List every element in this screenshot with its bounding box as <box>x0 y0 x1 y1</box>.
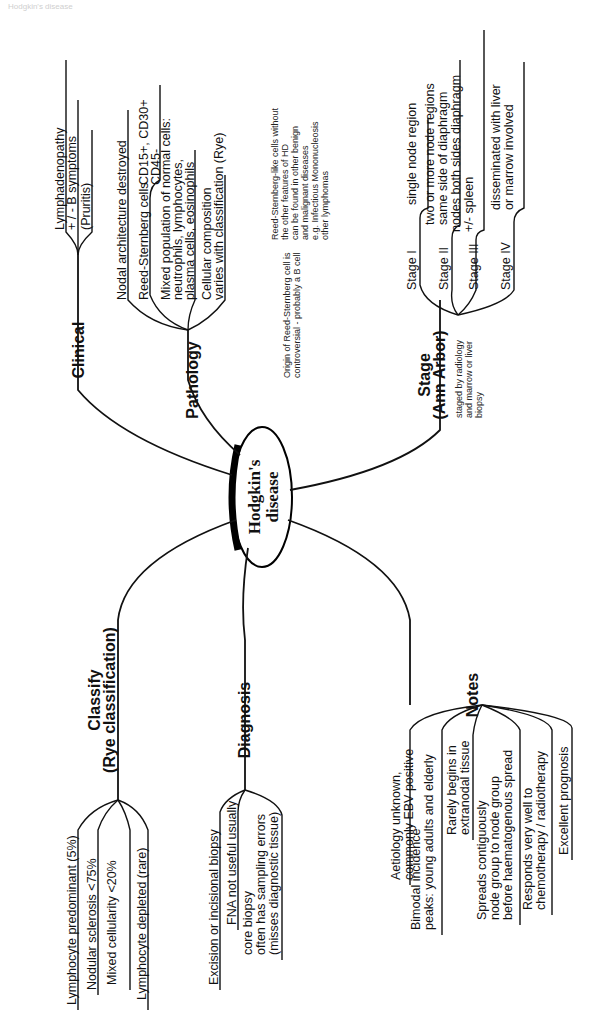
pathology-title: Pathology <box>184 341 201 418</box>
stage-3-desc-line2: +/- spleen <box>462 177 476 232</box>
classify-item-3: Mixed cellularity <20% <box>105 860 119 985</box>
diagnosis-item-2: FNA not useful usually <box>225 800 239 925</box>
diagnosis-title: Diagnosis <box>236 682 253 759</box>
clinical-item-2: + / - B symptoms <box>65 136 79 230</box>
central-node: Hodgkin's disease <box>232 427 292 567</box>
pathology-item-nodal: Nodal architecture destroyed <box>115 140 129 300</box>
stage-note-line1: staged by radiology <box>454 339 464 418</box>
center-title-line2: disease <box>263 471 282 522</box>
pathology-mixed-line3: plasma cells, eosinophils <box>183 162 197 300</box>
stage-note-line2: and marrow or liver <box>464 341 474 418</box>
stage-1-label: Stage I <box>405 250 419 290</box>
pathology-rs-like-note-line2: the other features of HD <box>280 143 290 240</box>
notes-item-4-line1: Spreads contiguously <box>475 800 489 920</box>
notes-item-5-line1: Responds very well to <box>521 788 535 910</box>
classify-item-1: Lymphocyte predominant (5%) <box>65 835 79 1005</box>
notes-item-3-line1: Rarely begins in <box>445 745 459 835</box>
pathology-rs-like-note-line4: and malignant diseases <box>300 145 310 240</box>
branch-notes-line <box>288 520 410 705</box>
notes-item-1-line1: Aetiology unknown, <box>389 772 403 880</box>
clinical-title: Clinical <box>70 322 87 379</box>
pathology-rs-like-note-line3: can be found in other benign <box>290 126 300 240</box>
stage-note-line3: biopsy <box>474 391 484 418</box>
diagnosis-item-3-line2: often has sampling errors <box>254 814 268 955</box>
diagnosis-item-3-line1: core biopsy <box>241 890 255 955</box>
diagnosis-item-1: Excision or incisional biopsy <box>207 829 221 985</box>
pathology-rs-like-note-line6: other lymphomas <box>320 170 330 240</box>
notes-item-4-line2: node group to node group <box>488 776 502 920</box>
classify-branch: Classify (Rye classification) Lymphocyte… <box>65 627 149 1010</box>
classify-item-4: Lymphocyte depleted (rare) <box>135 848 149 1000</box>
stage-3-label: Stage III <box>467 243 481 290</box>
stage-4-label: Stage IV <box>499 241 513 290</box>
notes-item-2-line1: Bimodal incidence <box>409 829 423 930</box>
clinical-branch: Clinical Lymphadenopathy + / - B symptom… <box>53 60 93 378</box>
mind-map: Hodgkin's disease Hodgkin's disease Clin… <box>0 0 600 1032</box>
page-header-left: Hodgkin's disease <box>8 2 73 11</box>
stage-2-desc-line1: two or more node regions <box>423 83 437 225</box>
pathology-branch: Pathology Nodal architecture destroyed R… <box>115 85 330 419</box>
notes-item-6: Excellent prognosis <box>557 747 571 855</box>
notes-item-5-line2: chemotherapy / radiotherapy <box>534 750 548 910</box>
stage-4-desc-line2: or marrow involved <box>502 104 516 210</box>
pathology-origin-note-line2: controversial - probably a B cell <box>292 252 302 378</box>
classify-title-line2: (Rye classification) <box>101 627 118 773</box>
stage-3-desc-line1: nodes both sides diaphragm <box>449 75 463 232</box>
diagnosis-item-3-line3: (misses diagnostic tissue) <box>267 812 281 955</box>
notes-branch: Notes Aetiology unknown, commonly EBV po… <box>389 673 572 935</box>
stage-branch: Stage (Ann Arbor) staged by radiology an… <box>405 30 524 420</box>
center-title-line1: Hodgkin's <box>245 459 264 534</box>
pathology-origin-note-line1: Origin of Reed-Sternberg cell is <box>282 252 292 378</box>
notes-item-4-line3: before haematogenous spread <box>501 750 515 920</box>
stage-1-desc: single node region <box>405 103 419 205</box>
stage-title-line2: (Ann Arbor) <box>431 330 448 419</box>
pathology-rs-like-note-line5: e.g. Infectious Mononucleosis <box>310 121 320 240</box>
stage-2-desc-line2: same side of diaphragm <box>436 92 450 225</box>
branch-classify-line <box>118 520 236 800</box>
notes-item-2-line2: peaks: young adults and elderly <box>422 753 436 930</box>
clinical-item-3: (Pruritis) <box>79 183 93 230</box>
stage-2-label: Stage II <box>437 247 451 290</box>
stage-4-desc-line1: disseminated with liver <box>489 84 503 210</box>
classify-item-2: Nodular sclerosis <75% <box>85 858 99 990</box>
pathology-item-rs-cells: Reed-Sternberg cells <box>137 183 151 300</box>
diagnosis-branch: Diagnosis Excision or incisional biopsy … <box>207 682 282 990</box>
pathology-cellular-line2: varies with classification (Rye) <box>212 133 226 300</box>
pathology-rs-like-note-line1: Reed-Sternberg-like cells without <box>270 107 280 240</box>
notes-item-3-line2: extranodal tissue <box>458 740 472 835</box>
